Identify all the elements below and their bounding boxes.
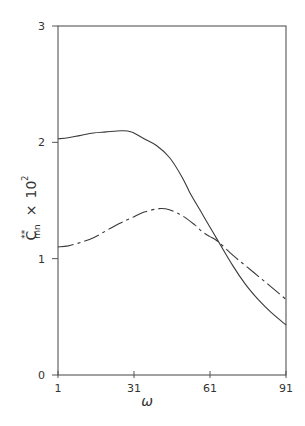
x-tick-label: 91 [279, 382, 293, 395]
y-tick-label: 0 [38, 369, 45, 382]
data-series [58, 131, 286, 325]
y-tick-label: 1 [38, 253, 45, 266]
x-tick-label: 1 [55, 382, 62, 395]
y-tick-label: 2 [38, 136, 45, 149]
ylabel-power-base: 10 [23, 181, 39, 199]
ylabel-sub: mn [32, 224, 42, 238]
plot-frame [58, 26, 286, 375]
series-solid [58, 131, 286, 325]
x-tick-label: 61 [203, 382, 217, 395]
svg-text:C**mn×102: C**mn×102 [20, 176, 42, 241]
y-tick-label: 3 [38, 20, 45, 33]
plot-border [58, 26, 286, 375]
x-tick-label: 31 [127, 382, 141, 395]
ylabel-power: 2 [21, 176, 30, 181]
ylabel-times: × [23, 204, 39, 216]
y-axis-label: C**mn×102 [20, 176, 42, 241]
ylabel-sup: ** [20, 229, 30, 239]
chart: 13161910123 ω C**mn×102 [0, 0, 305, 426]
series-dash-dot [58, 208, 286, 299]
axis-ticks: 13161910123 [38, 20, 293, 395]
x-axis-label: ω [141, 393, 153, 409]
